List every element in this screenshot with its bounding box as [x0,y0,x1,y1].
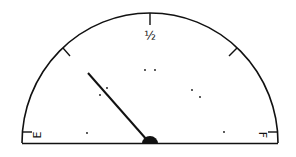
gauge-needle [88,73,147,140]
dial-dots [86,69,225,134]
label-empty: E [31,131,44,138]
tick-quarter [63,48,70,56]
label-full: F [256,132,269,138]
label-half: ½ [144,29,156,43]
fuel-gauge: E ½ F [0,0,296,157]
tick-three-quarter [229,48,237,56]
